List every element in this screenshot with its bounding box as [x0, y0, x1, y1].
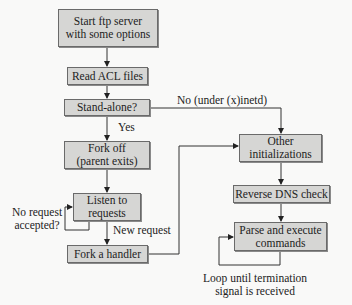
node-text: Parse and execute — [239, 224, 321, 236]
node-fork-a-handler: Fork a handler — [67, 245, 148, 263]
node-text: Fork off — [88, 142, 126, 154]
edge-label-no-inetd: No (under (x)inetd) — [177, 94, 267, 107]
node-text: Read ACL files — [72, 70, 143, 83]
node-reverse-dns-check: Reverse DNS check — [233, 185, 330, 203]
edge-label-new-request: New request — [113, 224, 171, 237]
node-listen-to-requests: Listen torequests — [73, 193, 141, 221]
node-text: Listen to — [87, 194, 128, 206]
node-text: initializations — [249, 148, 312, 160]
node-read-acl-files: Read ACL files — [67, 67, 148, 85]
edge-label-yes: Yes — [118, 121, 135, 134]
node-text: with some options — [66, 28, 150, 40]
node-text: Reverse DNS check — [235, 188, 328, 201]
node-text: Stand-alone? — [77, 101, 137, 114]
node-text: commands — [256, 237, 306, 249]
edge-label-no-request: No requestaccepted? — [12, 206, 62, 232]
node-text: Other — [267, 135, 293, 147]
node-text: (parent exits) — [77, 155, 138, 167]
node-parse-and-execute: Parse and executecommands — [234, 222, 327, 251]
node-text: Fork a handler — [74, 248, 141, 261]
node-other-initializations: Otherinitializations — [239, 134, 322, 162]
node-text: Start ftp server — [74, 15, 142, 27]
edge-label-loop: Loop until terminationsignal is received — [203, 272, 307, 298]
node-start-ftp-server: Start ftp serverwith some options — [58, 9, 158, 47]
node-stand-alone-decision: Stand-alone? — [64, 99, 150, 116]
node-text: requests — [88, 207, 126, 219]
node-fork-off: Fork off(parent exits) — [64, 141, 150, 169]
